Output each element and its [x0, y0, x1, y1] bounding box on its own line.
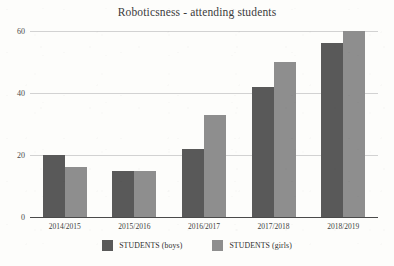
legend-label: STUDENTS (girls) — [229, 241, 291, 250]
x-axis-line — [30, 217, 378, 219]
plot-area: 0204060 2014/20152015/20162016/20172017/… — [30, 31, 378, 217]
y-tick-label: 60 — [17, 27, 25, 36]
x-tick-label: 2017/2018 — [258, 222, 290, 231]
bar-students-boys[interactable] — [43, 155, 65, 217]
bar-group: 2015/2016 — [100, 31, 170, 217]
bar-students-girls[interactable] — [65, 167, 87, 217]
y-tick-label: 40 — [17, 89, 25, 98]
legend-label: STUDENTS (boys) — [119, 241, 182, 250]
y-tick-label: 20 — [17, 151, 25, 160]
bar-group: 2017/2018 — [239, 31, 309, 217]
bars-layer: 2014/20152015/20162016/20172017/20182018… — [30, 31, 378, 217]
bar-students-girls[interactable] — [204, 115, 226, 217]
chart-legend: STUDENTS (boys)STUDENTS (girls) — [0, 240, 394, 251]
x-tick-label: 2014/2015 — [49, 222, 81, 231]
x-tick-label: 2016/2017 — [188, 222, 220, 231]
legend-swatch-icon — [102, 240, 113, 251]
legend-item[interactable]: STUDENTS (boys) — [102, 240, 182, 251]
bar-group: 2018/2019 — [308, 31, 378, 217]
x-tick-label: 2015/2016 — [118, 222, 150, 231]
legend-item[interactable]: STUDENTS (girls) — [212, 240, 291, 251]
bar-group: 2016/2017 — [169, 31, 239, 217]
bar-students-boys[interactable] — [252, 87, 274, 217]
bar-students-girls[interactable] — [343, 31, 365, 217]
bar-students-boys[interactable] — [112, 171, 134, 218]
chart-title: Roboticsness - attending students — [0, 6, 394, 18]
y-tick-label: 0 — [21, 213, 25, 222]
bar-students-boys[interactable] — [321, 43, 343, 217]
bar-students-girls[interactable] — [274, 62, 296, 217]
bar-students-boys[interactable] — [182, 149, 204, 217]
bar-chart: Roboticsness - attending students 020406… — [0, 0, 394, 266]
x-tick-label: 2018/2019 — [327, 222, 359, 231]
bar-group: 2014/2015 — [30, 31, 100, 217]
legend-swatch-icon — [212, 240, 223, 251]
bar-students-girls[interactable] — [134, 171, 156, 218]
